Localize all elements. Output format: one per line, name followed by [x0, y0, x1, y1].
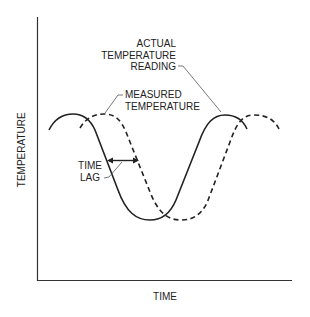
label-line: TIME	[76, 160, 104, 172]
label-line: READING	[95, 61, 176, 73]
y-axis-label: TEMPERATURE	[16, 110, 28, 190]
time-lag-diagram: TEMPERATURE TIME ACTUAL TEMPERATURE READ…	[0, 0, 310, 317]
label-line: TEMPERATURE	[95, 50, 176, 62]
x-axis-label: TIME	[145, 291, 185, 303]
actual-temperature-label: ACTUAL TEMPERATURE READING	[95, 38, 176, 73]
label-line: LAG	[76, 172, 104, 184]
label-line: MEASURED	[125, 89, 200, 101]
measured-leader-line	[105, 95, 123, 113]
label-line: ACTUAL	[95, 38, 176, 50]
measured-temperature-label: MEASURED TEMPERATURE	[125, 89, 200, 112]
label-line: TEMPERATURE	[125, 101, 200, 113]
time-lag-label: TIME LAG	[76, 160, 104, 183]
